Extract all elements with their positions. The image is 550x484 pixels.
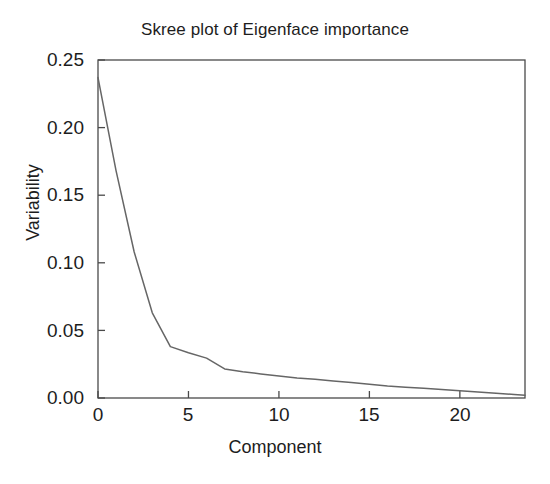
plot-area: [0, 0, 550, 484]
x-tick-marks: [98, 391, 460, 398]
axes-frame: [98, 60, 525, 398]
scree-plot-figure: Skree plot of Eigenface importance Varia…: [0, 0, 550, 484]
axes-frame-rect: [98, 60, 525, 398]
variability-curve: [98, 78, 525, 396]
